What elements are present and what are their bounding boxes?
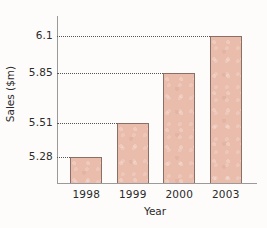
x-axis-title: Year xyxy=(57,205,253,217)
bar-2000 xyxy=(163,73,195,183)
y-tick-label: 5.51 xyxy=(29,116,53,128)
x-tick-label: 1999 xyxy=(108,188,158,200)
x-axis-line xyxy=(57,183,257,184)
bar-chart-figure: Sales ($m) 6.1 5.85 5.51 5.28 1998 1999 … xyxy=(0,0,267,228)
x-tick-label: 1998 xyxy=(61,188,111,200)
y-tick-label: 5.28 xyxy=(29,150,53,162)
y-tick-label: 6.1 xyxy=(36,29,53,41)
bar-1998 xyxy=(70,157,102,184)
y-axis-tick-labels: 6.1 5.85 5.51 5.28 xyxy=(0,0,53,228)
y-axis-line xyxy=(57,16,58,184)
y-tick-label: 5.85 xyxy=(29,66,53,78)
x-tick-label: 2003 xyxy=(201,188,251,200)
x-tick-label: 2000 xyxy=(154,188,204,200)
bar-1999 xyxy=(117,123,149,183)
bar-2003 xyxy=(210,36,242,183)
